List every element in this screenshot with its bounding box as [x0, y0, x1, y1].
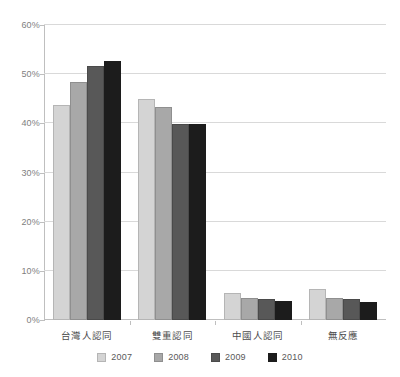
x-tick-mark: [215, 321, 216, 325]
bar-group: [138, 25, 206, 320]
legend-item-2007[interactable]: 2007: [97, 352, 132, 362]
y-tick-label: 30%: [21, 168, 40, 178]
bar-2010-中國人認同[interactable]: [275, 301, 292, 320]
y-tick-label: 0%: [27, 315, 40, 325]
y-tick-label: 10%: [21, 266, 40, 276]
legend-swatch-2007: [97, 353, 106, 362]
bar-2007-雙重認同[interactable]: [138, 99, 155, 320]
y-tick-label: 40%: [21, 118, 40, 128]
bar-group: [309, 25, 377, 320]
legend-swatch-2008: [154, 353, 163, 362]
legend-item-2009[interactable]: 2009: [211, 352, 246, 362]
legend-label: 2008: [168, 352, 189, 362]
bar-2008-台灣人認同[interactable]: [70, 82, 87, 320]
bar-2007-無反應[interactable]: [309, 289, 326, 320]
bar-2009-台灣人認同[interactable]: [87, 66, 104, 320]
bar-2010-無反應[interactable]: [360, 302, 377, 320]
bar-2010-雙重認同[interactable]: [189, 124, 206, 320]
bar-2009-無反應[interactable]: [343, 299, 360, 320]
category-label-3: 中國人認同: [232, 328, 284, 342]
y-tick-label: 50%: [21, 69, 40, 79]
x-tick-mark: [301, 321, 302, 325]
bar-2008-無反應[interactable]: [326, 298, 343, 320]
legend-label: 2007: [111, 352, 132, 362]
chart-legend: 2007200820092010: [0, 352, 400, 362]
category-label-2: 雙重認同: [152, 328, 193, 342]
bar-2007-中國人認同[interactable]: [224, 293, 241, 320]
bar-2007-台灣人認同[interactable]: [53, 105, 70, 320]
x-tick-mark: [130, 321, 131, 325]
legend-label: 2009: [225, 352, 246, 362]
legend-label: 2010: [282, 352, 303, 362]
bar-2009-雙重認同[interactable]: [172, 124, 189, 320]
legend-item-2010[interactable]: 2010: [268, 352, 303, 362]
bar-group: [53, 25, 121, 320]
legend-swatch-2009: [211, 353, 220, 362]
bar-2009-中國人認同[interactable]: [258, 299, 275, 320]
legend-swatch-2010: [268, 353, 277, 362]
bar-chart: 0%10%20%30%40%50%60% 台灣人認同雙重認同中國人認同無反應 2…: [0, 0, 400, 377]
category-label-1: 台灣人認同: [61, 328, 113, 342]
bar-2008-中國人認同[interactable]: [241, 298, 258, 320]
legend-item-2008[interactable]: 2008: [154, 352, 189, 362]
y-tick-label: 60%: [21, 20, 40, 30]
bar-2008-雙重認同[interactable]: [155, 107, 172, 320]
plot-area: [44, 25, 386, 320]
y-axis-tick-labels: 0%10%20%30%40%50%60%: [0, 0, 40, 377]
bar-2010-台灣人認同[interactable]: [104, 61, 121, 320]
y-tick-label: 20%: [21, 217, 40, 227]
category-label-4: 無反應: [328, 328, 359, 342]
bar-group: [224, 25, 292, 320]
